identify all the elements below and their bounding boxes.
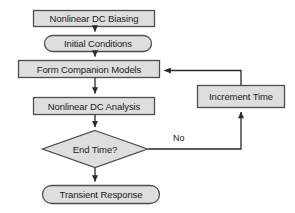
node-shape-end-time-decision[interactable] <box>43 131 148 168</box>
node-shape-transient-response[interactable] <box>43 186 160 204</box>
edge-decision-no-to-increment <box>148 112 241 149</box>
node-shapes <box>19 11 285 204</box>
node-shape-nonlinear-dc-analysis[interactable] <box>34 98 155 115</box>
node-shape-form-companion-models[interactable] <box>19 61 160 78</box>
flowchart-canvas: Nonlinear DC Biasing Initial Conditions … <box>0 0 295 213</box>
node-shape-initial-conditions[interactable] <box>45 36 152 52</box>
edge-increment-to-companion <box>165 71 242 86</box>
flowchart-graphics <box>0 0 295 213</box>
node-shape-increment-time[interactable] <box>198 86 285 108</box>
node-shape-nonlinear-dc-biasing[interactable] <box>34 11 155 27</box>
